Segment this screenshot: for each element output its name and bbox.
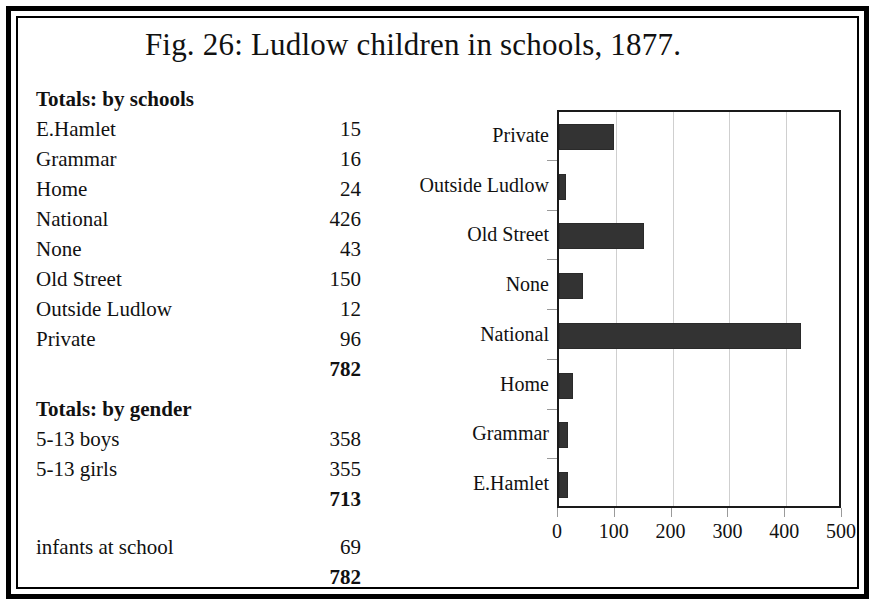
x-axis-tick-label: 400	[754, 520, 814, 542]
row-value: 782	[330, 562, 362, 592]
y-axis-label: Private	[365, 125, 549, 145]
x-axis-tick	[841, 508, 842, 517]
row-label: infants at school	[36, 532, 174, 562]
table-row: infants at school 69	[36, 532, 361, 562]
row-value: 150	[330, 264, 362, 294]
gender-total-row: 782	[36, 562, 361, 592]
table-row: National 426	[36, 204, 361, 234]
row-value: 69	[340, 532, 361, 562]
y-axis-tick	[547, 259, 557, 260]
row-value: 358	[330, 424, 362, 454]
y-axis-tick	[547, 359, 557, 360]
bar-chart: PrivateOutside LudlowOld StreetNoneNatio…	[361, 88, 853, 558]
table-row: Grammar 16	[36, 144, 361, 174]
bar-none	[559, 273, 583, 299]
row-value: 713	[330, 484, 362, 514]
y-axis-tick	[547, 160, 557, 161]
x-axis-tick-label: 200	[641, 520, 701, 542]
row-value: 24	[340, 174, 361, 204]
y-axis-label: None	[365, 274, 549, 294]
gender-table-heading: Totals: by gender	[36, 396, 361, 423]
row-label: Private	[36, 324, 95, 354]
row-value: 355	[330, 454, 362, 484]
row-label: Old Street	[36, 264, 122, 294]
table-row: Old Street 150	[36, 264, 361, 294]
row-value: 43	[340, 234, 361, 264]
table-row: 5-13 boys 358	[36, 424, 361, 454]
table-spacer	[36, 514, 361, 532]
figure-title: Fig. 26: Ludlow children in schools, 187…	[18, 26, 808, 64]
row-label: 5-13 girls	[36, 454, 117, 484]
row-label: Outside Ludlow	[36, 294, 172, 324]
bar-old-street	[559, 223, 644, 249]
table-row: Home 24	[36, 174, 361, 204]
y-axis-label: Outside Ludlow	[365, 175, 549, 195]
x-gridline	[786, 112, 787, 506]
row-label: National	[36, 204, 108, 234]
x-axis-tick	[784, 508, 785, 517]
schools-table-heading: Totals: by schools	[36, 86, 361, 113]
x-axis-tick	[671, 508, 672, 517]
bar-outside-ludlow	[559, 174, 566, 200]
y-axis-label: Home	[365, 374, 549, 394]
x-axis-tick-label: 300	[697, 520, 757, 542]
y-axis-tick	[547, 309, 557, 310]
figure-container: Fig. 26: Ludlow children in schools, 187…	[0, 0, 875, 605]
table-row: E.Hamlet 15	[36, 114, 361, 144]
bar-grammar	[559, 422, 568, 448]
y-axis-label: Old Street	[365, 224, 549, 244]
x-axis-tick-label: 0	[527, 520, 587, 542]
row-value: 782	[330, 354, 362, 384]
row-label: Grammar	[36, 144, 116, 174]
plot-area	[557, 110, 841, 508]
row-value: 16	[340, 144, 361, 174]
y-axis-tick	[547, 458, 557, 459]
x-gridline	[673, 112, 674, 506]
bar-e-hamlet	[559, 472, 568, 498]
row-value: 12	[340, 294, 361, 324]
bar-home	[559, 373, 573, 399]
table-row: None 43	[36, 234, 361, 264]
row-value: 426	[330, 204, 362, 234]
schools-total-row: 782	[36, 354, 361, 384]
row-value: 96	[340, 324, 361, 354]
x-axis-tick	[557, 508, 558, 517]
y-axis-label: E.Hamlet	[365, 473, 549, 493]
x-gridline	[616, 112, 617, 506]
bar-national	[559, 323, 801, 349]
y-axis-tick	[547, 409, 557, 410]
x-axis-tick	[727, 508, 728, 517]
y-axis-label: National	[365, 324, 549, 344]
x-gridline	[729, 112, 730, 506]
row-label: None	[36, 234, 82, 264]
x-axis-tick-label: 100	[584, 520, 644, 542]
gender-subtotal-row: 713	[36, 484, 361, 514]
totals-by-gender-table: Totals: by gender 5-13 boys 358 5-13 gir…	[36, 396, 361, 592]
y-axis-label: Grammar	[365, 423, 549, 443]
table-row: Outside Ludlow 12	[36, 294, 361, 324]
x-axis-tick-label: 500	[811, 520, 871, 542]
figure-content: Fig. 26: Ludlow children in schools, 187…	[18, 18, 857, 587]
row-label: E.Hamlet	[36, 114, 116, 144]
row-value: 15	[340, 114, 361, 144]
row-label: Home	[36, 174, 87, 204]
x-axis-tick	[614, 508, 615, 517]
y-axis-tick	[547, 210, 557, 211]
table-row: Private 96	[36, 324, 361, 354]
totals-by-schools-table: Totals: by schools E.Hamlet 15 Grammar 1…	[36, 86, 361, 384]
row-label: 5-13 boys	[36, 424, 119, 454]
table-row: 5-13 girls 355	[36, 454, 361, 484]
bar-private	[559, 124, 614, 150]
